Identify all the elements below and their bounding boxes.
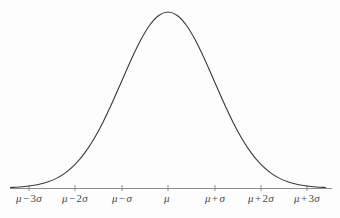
gaussian-curve-path [10, 12, 325, 187]
bell-curve-plot [0, 0, 340, 218]
normal-distribution-figure: μ−3σ μ−2σ μ−σ μ μ+σ μ+2σ μ+3σ [0, 0, 340, 218]
